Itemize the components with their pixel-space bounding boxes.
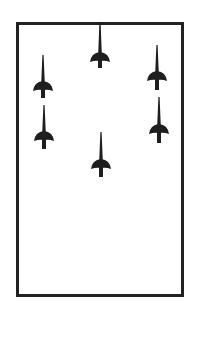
fencing-foil-icon	[91, 132, 111, 177]
fencing-foil-icon	[147, 45, 167, 90]
fencing-foil-icon	[149, 97, 169, 143]
fencing-foil-icon	[34, 105, 54, 149]
fencer-formation	[0, 0, 199, 338]
fencing-foil-icon	[33, 55, 53, 98]
fencing-foil-icon	[90, 22, 110, 68]
